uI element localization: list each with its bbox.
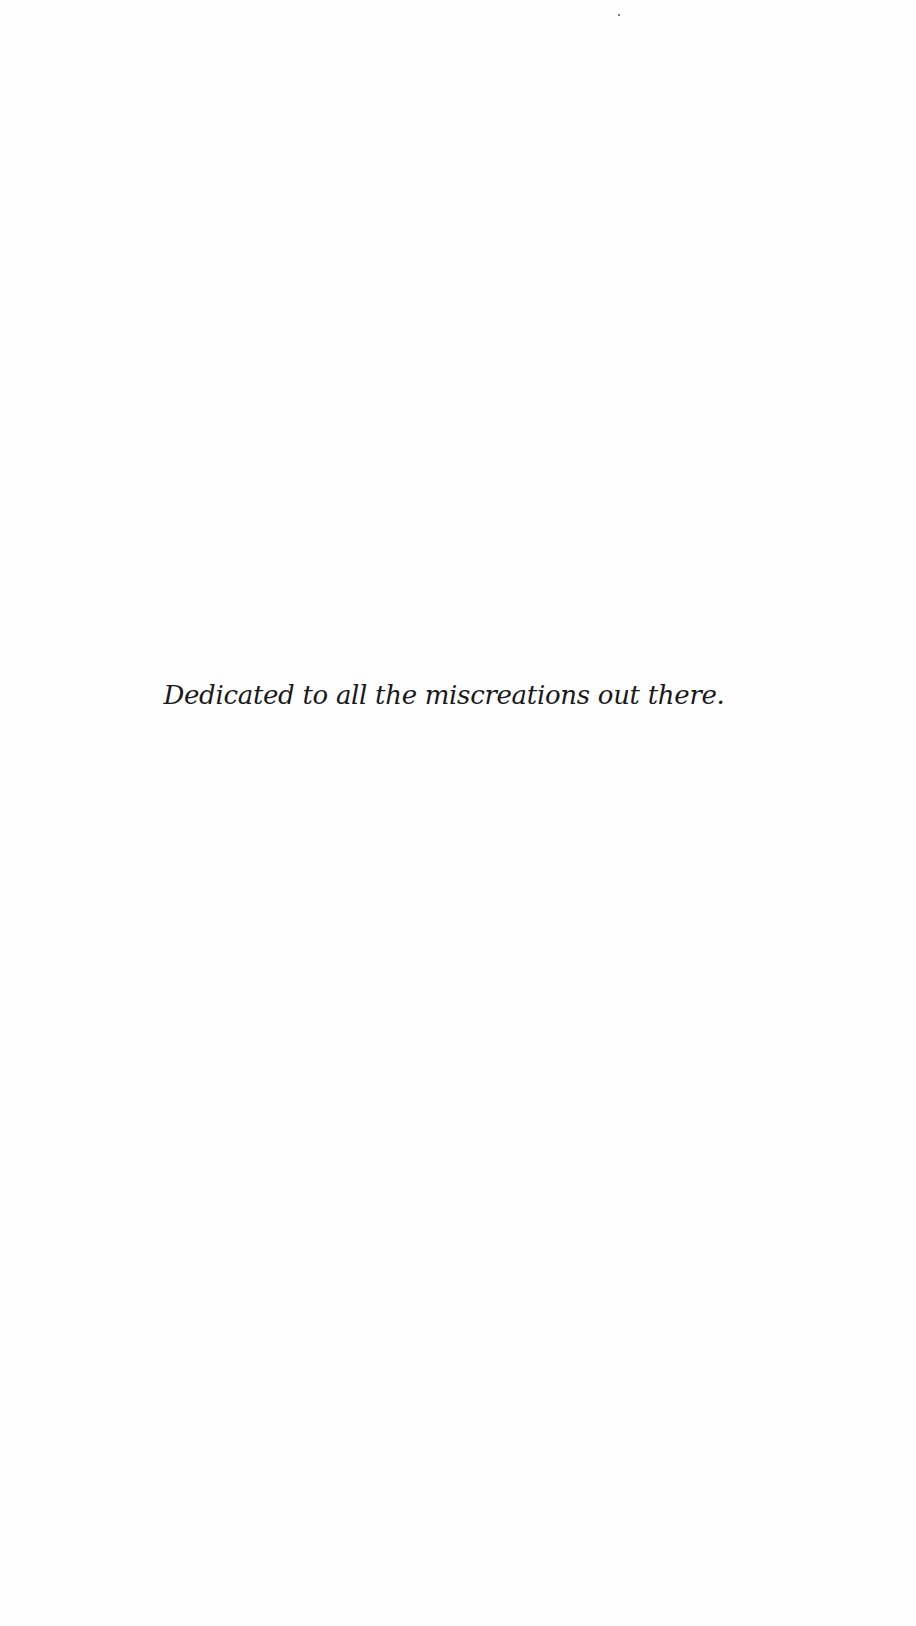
book-page: Dedicated to all the miscreations out th… (0, 0, 916, 1626)
scan-artifact (618, 14, 620, 16)
dedication-text: Dedicated to all the miscreations out th… (0, 680, 902, 710)
